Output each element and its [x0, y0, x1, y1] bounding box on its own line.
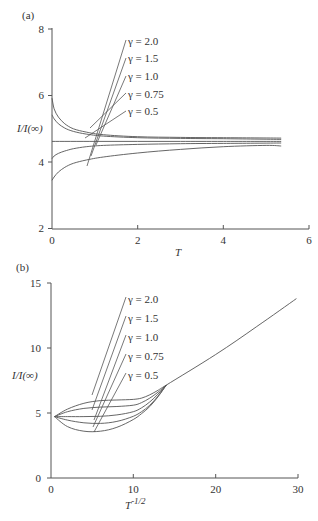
panel-a-y-axis-title: I/I(∞): [16, 122, 43, 135]
panel-a: (a) 8 6 4 2 0 2 4 6 I/I(∞) T: [16, 9, 312, 258]
curve-1-5: [55, 385, 167, 417]
panel-a-xtick: 6: [306, 234, 312, 246]
curve-0-5: [52, 145, 281, 180]
panel-b-curves: [55, 299, 297, 432]
panel-b-ytick: 15: [30, 277, 42, 289]
panel-a-legend: γ = 2.0 γ = 1.5 γ = 1.0 γ = 0.75 γ = 0.5: [127, 35, 164, 117]
legend-gamma-0-5: γ = 0.5: [127, 105, 159, 117]
panel-a-ytick: 2: [39, 222, 45, 234]
panel-a-label: (a): [22, 9, 35, 22]
legend-gamma-1-5: γ = 1.5: [127, 52, 159, 64]
panel-b-y-axis-title: I/I(∞): [11, 369, 38, 382]
legend-gamma-1-0: γ = 1.0: [127, 331, 159, 343]
panel-a-curves: [52, 98, 281, 180]
legend-gamma-0-5: γ = 0.5: [127, 369, 159, 381]
panel-b-xtick: 20: [210, 483, 222, 495]
panel-a-ytick: 6: [39, 89, 45, 101]
panel-a-legend-leaders: [85, 40, 126, 166]
legend-gamma-2-0: γ = 2.0: [127, 35, 159, 47]
legend-gamma-0-75: γ = 0.75: [127, 350, 164, 362]
panel-a-x-axis-title: T: [175, 246, 182, 258]
curve-0-5: [55, 385, 167, 432]
legend-gamma-1-0: γ = 1.0: [127, 70, 159, 82]
panel-a-xtick: 2: [135, 234, 141, 246]
panel-b-xtick: 10: [128, 483, 140, 495]
legend-gamma-1-5: γ = 1.5: [127, 312, 159, 324]
panel-a-ytick: 4: [39, 156, 45, 168]
panel-a-ytick: 8: [39, 23, 45, 35]
panel-b-ytick: 5: [36, 407, 42, 419]
legend-gamma-0-75: γ = 0.75: [127, 88, 164, 100]
figure: (a) 8 6 4 2 0 2 4 6 I/I(∞) T: [0, 0, 318, 521]
curve-1-0: [55, 385, 167, 417]
curve-1-5: [52, 115, 281, 140]
panel-b-legend-leaders: [92, 297, 126, 432]
panel-b: (b) 15 10 5 0 0 10 20 30 I/I(∞) T-1/2: [11, 261, 304, 511]
legend-gamma-2-0: γ = 2.0: [127, 293, 159, 305]
panel-b-xtick: 30: [293, 483, 305, 495]
panel-b-ytick: 0: [36, 472, 42, 484]
panel-b-x-ticks: 0 10 20 30: [48, 474, 304, 495]
panel-b-ytick: 10: [30, 342, 42, 354]
panel-a-xtick: 4: [221, 234, 227, 246]
curve-0-75: [55, 385, 167, 423]
panel-b-legend: γ = 2.0 γ = 1.5 γ = 1.0 γ = 0.75 γ = 0.5: [127, 293, 164, 381]
curve-2-0: [52, 98, 281, 138]
panel-a-xtick: 0: [49, 234, 55, 246]
panel-b-label: (b): [16, 261, 29, 274]
panel-a-x-ticks: 0 2 4 6: [49, 225, 312, 246]
curve-2-0: [55, 299, 297, 417]
panel-b-xtick: 0: [48, 483, 54, 495]
panel-b-x-axis-title: T-1/2: [125, 496, 146, 511]
